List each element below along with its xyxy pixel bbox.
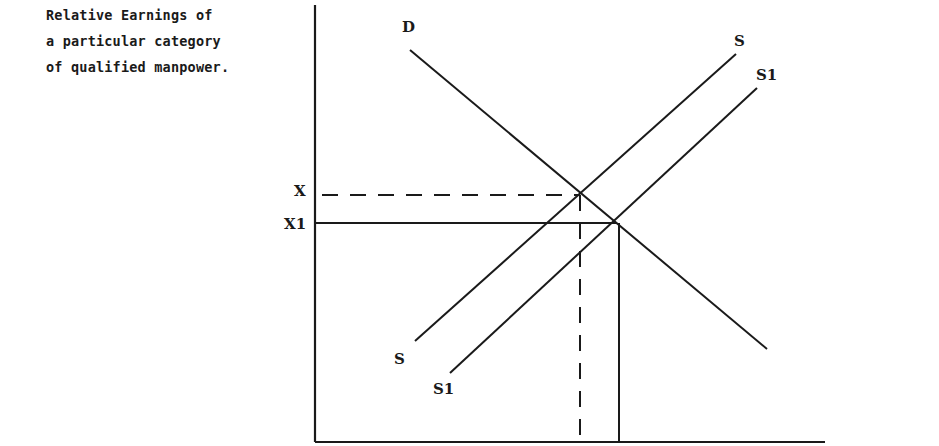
- label-s1-top: S1: [756, 66, 777, 84]
- label-s1-bottom: S1: [433, 380, 454, 398]
- tick-label-x1: X1: [284, 215, 306, 233]
- label-s-bottom: S: [394, 350, 405, 368]
- label-d: D: [402, 18, 415, 36]
- supply-demand-diagram: D S S1 S S1 X X1: [0, 0, 939, 446]
- supply-curve-s1: [450, 88, 757, 373]
- label-s-top: S: [734, 32, 745, 50]
- demand-curve: [410, 50, 767, 349]
- tick-label-x: X: [294, 182, 306, 200]
- supply-curve-s: [415, 54, 736, 341]
